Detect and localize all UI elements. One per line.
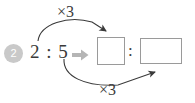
arrow-bottom-denominator [64, 59, 155, 85]
mapping-arrows [0, 0, 195, 103]
ratio-equivalence-diagram: 2 2 : 5 : ×3 ×3 [0, 0, 195, 103]
arrow-top-numerator [38, 20, 106, 41]
